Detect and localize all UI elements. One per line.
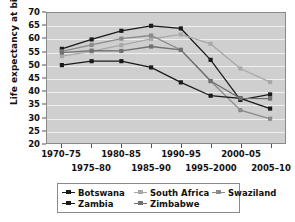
data-point <box>60 50 64 54</box>
x-axis-ticks <box>46 144 286 148</box>
data-point <box>60 54 64 58</box>
data-point <box>119 29 123 33</box>
x-axis-tick-label: 2005–10 <box>251 163 291 173</box>
y-axis-tick-label: 70 <box>28 7 40 17</box>
data-point <box>268 117 272 121</box>
x-axis-tick-label: 1980–85 <box>101 149 141 159</box>
series-layer <box>47 13 285 144</box>
x-axis-labels-row2: 1975–801985–901995–20002005–10 <box>46 163 286 175</box>
legend-marker-icon <box>62 188 75 197</box>
data-point <box>209 79 213 83</box>
y-axis-ticks: 7065605550454035302520 <box>0 12 46 144</box>
legend-row: ZambiaZimbabwe <box>62 198 235 209</box>
series-line-zimbabwe <box>62 47 270 99</box>
data-point <box>90 49 94 53</box>
x-axis-tick-label: 1990–95 <box>161 149 201 159</box>
legend-item-botswana[interactable]: Botswana <box>62 188 134 198</box>
data-point <box>149 24 153 28</box>
data-point <box>209 58 213 62</box>
data-point <box>60 63 64 67</box>
data-point <box>268 106 272 110</box>
data-point <box>179 80 183 84</box>
data-point <box>268 92 272 96</box>
y-axis-tick-label: 25 <box>28 126 40 136</box>
chart-figure: Life expectancy at birth (years) 7065605… <box>0 0 295 222</box>
x-axis-tick-mark <box>181 144 182 148</box>
data-point <box>90 59 94 63</box>
data-point <box>179 48 183 52</box>
data-point <box>268 97 272 101</box>
data-point <box>90 37 94 41</box>
legend-marker-icon <box>134 199 147 208</box>
y-axis-tick-label: 50 <box>28 60 40 70</box>
legend-marker-icon <box>134 188 147 197</box>
chart-legend: BotswanaSouth AfricaSwazilandZambiaZimba… <box>57 183 240 213</box>
data-point <box>179 26 183 30</box>
y-axis-tick-label: 45 <box>28 73 40 83</box>
x-axis-tick-mark <box>61 144 62 148</box>
data-point <box>238 66 242 70</box>
x-axis-tick-label: 1975–80 <box>71 163 111 173</box>
data-point <box>149 33 153 37</box>
legend-label: Zambia <box>78 199 114 209</box>
x-axis-tick-label: 2000–05 <box>221 149 261 159</box>
legend-item-zimbabwe[interactable]: Zimbabwe <box>134 199 212 209</box>
y-axis-tick-label: 55 <box>28 47 40 57</box>
y-axis-tick-label: 35 <box>28 99 40 109</box>
data-point <box>119 59 123 63</box>
x-axis-tick-mark <box>91 144 92 148</box>
legend-item-south-africa[interactable]: South Africa <box>134 188 212 198</box>
legend-marker-icon <box>212 188 225 197</box>
data-point <box>119 43 123 47</box>
x-axis-tick-label: 1985–90 <box>131 163 171 173</box>
legend-label: Zimbabwe <box>150 199 199 209</box>
data-point <box>119 49 123 53</box>
x-axis-tick-mark <box>241 144 242 148</box>
x-axis-tick-mark <box>211 144 212 148</box>
data-point <box>238 96 242 100</box>
legend-row: BotswanaSouth AfricaSwaziland <box>62 187 235 198</box>
data-point <box>238 108 242 112</box>
y-axis-tick-label: 30 <box>28 113 40 123</box>
plot-area <box>46 12 286 144</box>
data-point <box>149 65 153 69</box>
legend-item-zambia[interactable]: Zambia <box>62 199 134 209</box>
x-axis-tick-label: 1995–2000 <box>185 163 237 173</box>
x-axis-labels-row1: 1970–751980–851990–952000–05 <box>46 149 286 161</box>
y-axis-tick-label: 60 <box>28 33 40 43</box>
data-point <box>90 43 94 47</box>
data-point <box>179 32 183 36</box>
y-axis-tick-label: 20 <box>28 139 40 149</box>
data-point <box>209 94 213 98</box>
x-axis-tick-mark <box>121 144 122 148</box>
legend-label: South Africa <box>150 188 209 198</box>
legend-marker-icon <box>62 199 75 208</box>
legend-label: Swaziland <box>228 188 276 198</box>
legend-label: Botswana <box>78 188 125 198</box>
y-axis-tick-label: 65 <box>28 20 40 30</box>
data-point <box>268 80 272 84</box>
data-point <box>119 37 123 41</box>
y-axis-tick-label: 40 <box>28 86 40 96</box>
data-point <box>209 42 213 46</box>
plot-background <box>46 12 286 144</box>
data-point <box>149 44 153 48</box>
x-axis-tick-label: 1970–75 <box>41 149 81 159</box>
x-axis-tick-mark <box>271 144 272 148</box>
x-axis-tick-mark <box>151 144 152 148</box>
